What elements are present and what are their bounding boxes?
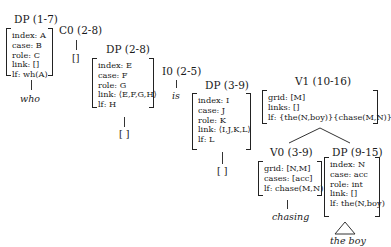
leaf-the-boy: the boy	[330, 235, 366, 246]
node-label-v0-3-9: V0 (3-9)	[270, 146, 313, 158]
branch-line	[287, 200, 288, 209]
feature-matrix-v0: grid: [N,M] cases: [acc] lf: chase(M,N)	[258, 161, 322, 196]
feature-lf: lf: the(N,boy)	[330, 199, 374, 209]
feature-matrix-dp-9-15: index: N case: acc role: int link: [] lf…	[324, 157, 380, 217]
triangle-icon	[335, 222, 355, 234]
leaf-chasing: chasing	[272, 211, 309, 222]
feature-lf: lf: chase(M,N)	[264, 184, 316, 194]
